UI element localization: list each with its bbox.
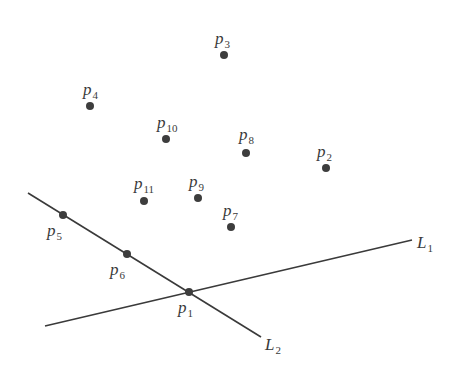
point-p3 (220, 51, 228, 59)
label-p1-base: p (177, 298, 187, 317)
label-p8: p8 (238, 125, 255, 146)
label-p7-base: p (222, 201, 232, 220)
label-p10-subscript: 10 (167, 122, 179, 134)
label-l1: L1 (416, 233, 433, 254)
point-line-diagram: L1L2p1p2p3p4p5p6p7p8p9p10p11 (0, 0, 459, 379)
labels-layer: L1L2p1p2p3p4p5p6p7p8p9p10p11 (46, 29, 433, 356)
point-p10 (162, 135, 170, 143)
label-p8-base: p (238, 125, 248, 144)
label-l1-subscript: 1 (427, 242, 433, 254)
label-p8-subscript: 8 (249, 134, 255, 146)
label-p5-base: p (46, 221, 56, 240)
label-p5-subscript: 5 (57, 230, 63, 242)
point-p11 (140, 197, 148, 205)
label-p6: p6 (109, 260, 126, 281)
label-p3-base: p (214, 29, 224, 48)
label-p6-subscript: 6 (120, 269, 126, 281)
label-p2-subscript: 2 (327, 151, 333, 163)
label-p7-subscript: 7 (233, 210, 239, 222)
label-p2: p2 (316, 142, 332, 163)
label-l2: L2 (264, 335, 281, 356)
label-p2-base: p (316, 142, 326, 161)
label-p4: p4 (82, 80, 99, 101)
label-p11-base: p (133, 174, 143, 193)
label-p5: p5 (46, 221, 63, 242)
point-p9 (194, 194, 202, 202)
point-p7 (227, 223, 235, 231)
label-p6-base: p (109, 260, 119, 279)
label-p11: p11 (133, 174, 154, 195)
line-l1 (45, 240, 412, 326)
label-p1-subscript: 1 (188, 307, 194, 319)
label-l1-base: L (416, 233, 426, 252)
point-p4 (86, 102, 94, 110)
label-p9: p9 (188, 172, 205, 193)
label-p9-base: p (188, 172, 198, 191)
point-p2 (322, 164, 330, 172)
label-p9-subscript: 9 (199, 181, 205, 193)
label-p10: p10 (156, 113, 178, 134)
point-p6 (123, 250, 131, 258)
label-p7: p7 (222, 201, 239, 222)
label-p3-subscript: 3 (225, 38, 231, 50)
label-p4-subscript: 4 (93, 89, 99, 101)
point-p5 (59, 211, 67, 219)
label-p1: p1 (177, 298, 193, 319)
lines-layer (28, 193, 412, 337)
label-p3: p3 (214, 29, 231, 50)
label-p11-subscript: 11 (144, 183, 155, 195)
label-p4-base: p (82, 80, 92, 99)
label-p10-base: p (156, 113, 166, 132)
point-p8 (242, 149, 250, 157)
label-l2-base: L (264, 335, 274, 354)
point-p1 (185, 288, 193, 296)
label-l2-subscript: 2 (275, 344, 281, 356)
